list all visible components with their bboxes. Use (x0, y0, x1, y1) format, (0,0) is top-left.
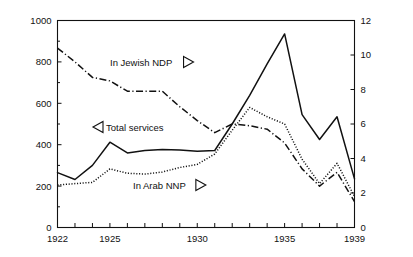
y-right-tick-label: 4 (361, 153, 366, 164)
y-right-tick-label: 6 (361, 118, 366, 129)
y-right-tick-label: 0 (361, 222, 366, 233)
x-tick-label: 1922 (47, 233, 68, 244)
y-right-tick-label: 8 (361, 84, 366, 95)
chart-background (0, 0, 413, 257)
y-left-tick-label: 200 (36, 181, 52, 192)
annotation-label: Total services (106, 122, 164, 133)
chart-figure: Total services (thousands of current P£)… (0, 0, 413, 257)
x-tick-label: 1925 (99, 233, 120, 244)
annotation-label: In Arab NNP (133, 180, 186, 191)
y-right-tick-label: 12 (361, 15, 372, 26)
x-tick-label: 1939 (344, 233, 365, 244)
x-tick-label: 1930 (187, 233, 208, 244)
x-tick-label: 1935 (274, 233, 295, 244)
y-left-tick-label: 1000 (30, 15, 51, 26)
y-left-tick-label: 0 (46, 222, 51, 233)
y-left-tick-label: 800 (36, 56, 52, 67)
y-left-tick-label: 400 (36, 139, 52, 150)
y-right-tick-label: 2 (361, 187, 366, 198)
y-right-tick-label: 10 (361, 49, 372, 60)
plot-area: 02004006008001000 024681012 192219251930… (0, 0, 413, 257)
y-left-tick-label: 600 (36, 98, 52, 109)
annotation-label: In Jewish NDP (110, 57, 172, 68)
